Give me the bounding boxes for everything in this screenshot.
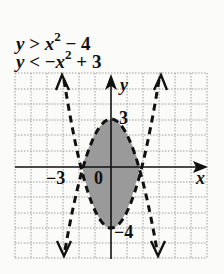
graph: y x 3 −3 0 −4 [0, 0, 224, 274]
tick-label-neg4: −4 [114, 222, 133, 242]
y-axis-label: y [118, 75, 129, 95]
arrow-up-right-icon [154, 75, 167, 90]
x-axis-label: x [195, 168, 205, 188]
origin-label: 0 [94, 168, 103, 188]
tick-label-3: 3 [119, 108, 128, 128]
tick-label-neg3: −3 [46, 168, 65, 188]
arrow-down-right-icon [151, 241, 165, 256]
